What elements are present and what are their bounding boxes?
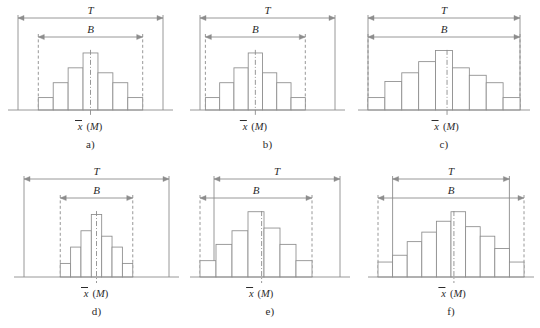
spread-arrowhead <box>127 195 133 200</box>
spread-arrowhead <box>205 34 211 39</box>
spread-label: B <box>448 184 455 196</box>
histogram-bar <box>38 98 53 110</box>
spread-arrowhead <box>60 195 66 200</box>
x-axis-label-variable: x <box>77 121 83 132</box>
panel-f: TBx(M)f) <box>368 165 534 323</box>
histogram-bar <box>509 262 524 277</box>
panel-caption-f: f) <box>368 305 534 317</box>
tolerance-label: T <box>264 4 271 16</box>
histogram-bar <box>68 68 83 110</box>
spread-arrowhead <box>38 34 44 39</box>
histogram-bar <box>113 83 128 110</box>
histogram-bar <box>262 73 276 110</box>
histogram-bar <box>486 83 503 110</box>
tolerance-arrowhead <box>200 15 206 20</box>
panel-e-plot: TBx(M) <box>190 165 350 323</box>
x-axis-label-variable: x <box>440 288 446 299</box>
tolerance-label: T <box>93 165 100 177</box>
spread-arrowhead <box>137 34 143 39</box>
histogram-bar <box>205 98 219 110</box>
panel-caption-e: e) <box>190 305 350 317</box>
figure-root: TBx(M)a)TBx(M)b)TBx(M)c)TBx(M)d)TBx(M)e)… <box>0 0 540 328</box>
histogram-bar <box>220 83 234 110</box>
tolerance-arrowhead <box>368 15 374 20</box>
panel-f-plot: TBx(M) <box>368 165 534 323</box>
spread-arrow: B <box>378 184 524 201</box>
histogram-bar <box>122 263 132 277</box>
spread-arrow: B <box>38 23 142 40</box>
histogram-bar <box>451 212 466 277</box>
panel-caption-a: a) <box>8 138 173 150</box>
histogram-bar <box>469 75 486 110</box>
histogram-bars <box>378 212 524 277</box>
spread-arrowhead <box>518 195 524 200</box>
tolerance-arrowhead <box>393 176 399 181</box>
panel-c: TBx(M)c) <box>358 4 530 156</box>
tolerance-arrowhead <box>503 176 509 181</box>
x-axis-label-variable: x <box>83 288 89 299</box>
x-axis-label: x(M) <box>246 288 274 301</box>
x-axis-label-unit: (M) <box>258 288 274 300</box>
spread-arrowhead <box>368 34 374 39</box>
panel-d-plot: TBx(M) <box>14 165 179 323</box>
tolerance-arrowhead <box>514 15 520 20</box>
panel-b: TBx(M)b) <box>190 4 345 156</box>
spread-arrow: B <box>200 184 312 201</box>
histogram-bar <box>232 231 248 277</box>
x-axis-label-variable: x <box>433 121 439 132</box>
panel-c-plot: TBx(M) <box>358 4 530 156</box>
histogram-bars <box>368 50 520 110</box>
histogram-bar <box>291 98 305 110</box>
histogram-bar <box>436 221 451 277</box>
panel-a-plot: TBx(M) <box>8 4 173 156</box>
histogram-bar <box>385 81 402 110</box>
x-axis-label: x(M) <box>81 288 109 301</box>
x-axis-label: x(M) <box>432 121 460 134</box>
tolerance-label: T <box>87 4 94 16</box>
histogram-bar <box>234 68 248 110</box>
spread-label: B <box>441 23 448 35</box>
histogram-bar <box>378 262 393 277</box>
tolerance-arrow: T <box>368 4 520 21</box>
tolerance-label: T <box>274 165 281 177</box>
x-axis-label-variable: x <box>248 288 254 299</box>
x-axis-label-unit: (M) <box>251 121 267 133</box>
panel-caption-b: b) <box>190 138 345 150</box>
histogram-bar <box>280 244 296 277</box>
histogram-bar <box>407 242 422 277</box>
x-axis-label-unit: (M) <box>443 121 459 133</box>
spread-arrowhead <box>200 195 206 200</box>
histogram-bar <box>466 227 481 277</box>
histogram-bar <box>128 98 143 110</box>
histogram-bar <box>422 232 437 277</box>
tolerance-arrowhead <box>157 15 163 20</box>
spread-arrowhead <box>299 34 305 39</box>
histogram-bar <box>368 98 385 110</box>
histogram-bar <box>102 236 112 277</box>
x-axis-label-unit: (M) <box>450 288 466 300</box>
spread-arrowhead <box>306 195 312 200</box>
histogram-bar <box>200 261 216 277</box>
histogram-bars <box>200 212 312 277</box>
spread-arrow: B <box>60 184 133 201</box>
spread-arrowhead <box>514 34 520 39</box>
histogram-bar <box>402 73 419 110</box>
tolerance-arrowhead <box>334 176 340 181</box>
histogram-bar <box>419 62 436 110</box>
histogram-bar <box>452 68 469 110</box>
panel-caption-d: d) <box>14 305 179 317</box>
panel-e: TBx(M)e) <box>190 165 350 323</box>
histogram-bar <box>112 247 122 277</box>
histogram-bar <box>264 228 280 277</box>
tolerance-arrow: T <box>24 165 169 182</box>
panel-a: TBx(M)a) <box>8 4 173 156</box>
x-axis-label: x(M) <box>438 288 466 301</box>
histogram-bar <box>60 263 70 277</box>
x-axis-label: x(M) <box>75 121 103 134</box>
histogram-bar <box>216 244 232 277</box>
x-axis-label-unit: (M) <box>87 121 103 133</box>
spread-label: B <box>252 23 259 35</box>
histogram-bar <box>296 261 312 277</box>
histogram-bar <box>53 83 68 110</box>
tolerance-arrowhead <box>163 176 169 181</box>
